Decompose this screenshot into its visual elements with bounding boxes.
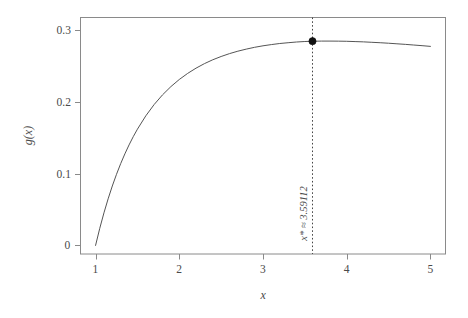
optimum-point-marker [309,38,316,45]
x-axis-ticks [97,254,431,260]
plot-canvas [0,0,468,318]
data-curve [96,41,431,245]
y-tick-label: 0 [65,239,71,251]
y-tick-label: 0.3 [57,24,71,36]
frame-border [81,18,446,255]
x-axis-title: x [261,288,266,303]
x-tick-label: 3 [260,263,266,275]
x-tick-label: 1 [93,263,99,275]
x-tick-label: 5 [427,263,433,275]
x-tick-label: 2 [176,263,182,275]
optimum-annotation-label: x* ≈ 3.59112 [297,186,308,240]
y-axis-ticks [75,31,81,246]
y-axis-title: g(x) [21,126,36,145]
x-tick-label: 4 [344,263,350,275]
chart-figure: 12345 00.10.20.3 x g(x) x* ≈ 3.59112 [0,0,468,318]
y-tick-label: 0.1 [57,168,71,180]
plot-frame [81,18,446,255]
y-tick-label: 0.2 [57,96,71,108]
